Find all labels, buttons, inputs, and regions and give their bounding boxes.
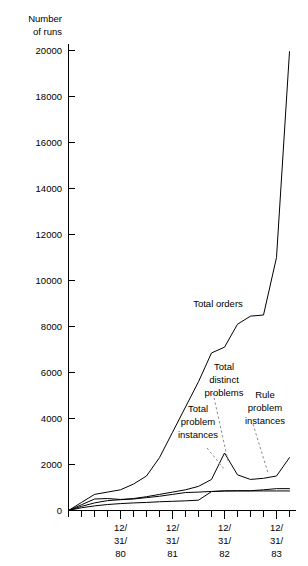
x-tick-label-line3: 83 <box>271 548 282 559</box>
line-chart-svg: 20000 18000 16000 14000 12000 10000 8000… <box>0 0 308 566</box>
annotation-label-line3: instances <box>178 429 218 440</box>
y-tick-label: 20000 <box>36 45 62 56</box>
x-tick-label-line2: 31/ <box>270 535 284 546</box>
y-tick-label: 18000 <box>36 91 62 102</box>
x-tick-label-group-80: 12/ 31/ 80 <box>114 522 128 559</box>
y-tick-label: 16000 <box>36 137 62 148</box>
annotation-label: Total orders <box>193 298 243 309</box>
chart-container: 20000 18000 16000 14000 12000 10000 8000… <box>0 0 308 566</box>
x-tick-label-line1: 12/ <box>114 522 128 533</box>
annotation-total-distinct-problems: Total distinct problems <box>204 361 243 398</box>
x-tick-label-line2: 31/ <box>218 535 232 546</box>
x-tick-label-line1: 12/ <box>270 522 284 533</box>
y-tick-label: 8000 <box>41 321 62 332</box>
annotation-rule-problem-instances: Rule problem instances <box>245 389 285 426</box>
y-tick-label: 2000 <box>41 459 62 470</box>
leader-line-total-distinct-problems <box>213 393 228 461</box>
y-tick-label: 6000 <box>41 367 62 378</box>
x-tick-label-group-82: 12/ 31/ 82 <box>218 522 232 559</box>
annotation-label-line3: instances <box>245 415 285 426</box>
x-tick-label-line3: 81 <box>167 548 178 559</box>
annotation-label-line2: distinct <box>209 374 239 385</box>
y-tick-label: 14000 <box>36 183 62 194</box>
y-tick-marks <box>69 51 76 511</box>
leader-line-rule-problem-instances <box>253 424 268 473</box>
x-tick-label-line1: 12/ <box>166 522 180 533</box>
y-tick-label: 0 <box>57 505 62 516</box>
y-tick-label: 12000 <box>36 229 62 240</box>
x-tick-label-line1: 12/ <box>218 522 232 533</box>
y-tick-label: 10000 <box>36 275 62 286</box>
x-tick-label-group-81: 12/ 31/ 81 <box>166 522 180 559</box>
annotation-label-line1: Total <box>188 403 208 414</box>
x-tick-marks <box>69 511 290 520</box>
annotation-label-line3: problems <box>204 387 243 398</box>
y-axis-title-line2: of runs <box>33 26 62 37</box>
x-tick-label-line2: 31/ <box>114 535 128 546</box>
annotation-total-problem-instances: Total problem instances <box>178 403 218 440</box>
leader-line-total-problem-instances <box>207 448 225 470</box>
annotation-label-line1: Total <box>214 361 234 372</box>
series-line-total-orders <box>69 52 290 511</box>
annotation-total-orders: Total orders <box>193 298 243 309</box>
y-axis-title-line1: Number <box>28 13 62 24</box>
y-tick-label: 4000 <box>41 413 62 424</box>
annotation-label-line1: Rule <box>255 389 275 400</box>
x-tick-label-group-83: 12/ 31/ 83 <box>270 522 284 559</box>
x-tick-label-line3: 82 <box>219 548 230 559</box>
annotation-label-line2: problem <box>248 402 282 413</box>
x-tick-label-line2: 31/ <box>166 535 180 546</box>
series-line-total-distinct-problems <box>69 489 290 511</box>
annotation-label-line2: problem <box>181 416 215 427</box>
x-tick-label-line3: 80 <box>115 548 126 559</box>
